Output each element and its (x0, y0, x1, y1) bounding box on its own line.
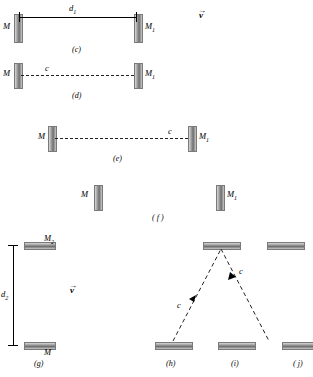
panel-g-label-M: M (44, 348, 51, 357)
panel-g-dim-label-sub: 2 (5, 295, 8, 301)
panel-h-mirror-bottom (155, 342, 193, 350)
panel-g-dim-label: d2 (1, 290, 8, 301)
panel-e-caption: (e) (113, 155, 122, 163)
panel-c-label-M: M (3, 22, 10, 31)
panel-g-velocity-arrow: → (69, 282, 77, 290)
panel-f-mirror-M (94, 185, 103, 211)
panel-c-dim-tick-right (136, 12, 137, 22)
panel-e-photon-label: c (168, 127, 172, 136)
photon-path-overlay (0, 0, 313, 377)
panel-c-label-M1: M1 (145, 22, 155, 33)
panel-e-mirror-M (48, 126, 57, 152)
panel-f-label-M1: M1 (227, 190, 237, 201)
panel-e-label-M: M (38, 132, 45, 141)
panel-g-label-M2-sub: 2 (51, 239, 54, 245)
photon-arrow-up (189, 295, 196, 302)
panel-i-caption: (i) (231, 360, 239, 368)
panel-h-photon-label: c (177, 301, 181, 310)
panel-g-velocity-label: → v (70, 286, 74, 295)
panel-d-photon-path (21, 75, 134, 76)
panel-c-dim-tick-left (19, 12, 20, 22)
panel-c-caption: (c) (72, 46, 81, 54)
panel-d-label-M1-sub: 1 (152, 74, 155, 80)
panel-c-dim-label: d1 (69, 4, 76, 15)
panel-h-caption: (h) (166, 360, 175, 368)
panel-d-label-M: M (3, 69, 10, 78)
panel-f-label-M: M (81, 190, 88, 199)
panel-d-mirror-M (14, 63, 23, 89)
panel-c-dim-line (19, 17, 136, 18)
panel-e-photon-path (55, 138, 188, 139)
panel-f-label-M1-sub: 1 (234, 195, 237, 201)
photon-path-up (173, 249, 221, 341)
panel-c-label-M1-sub: 1 (152, 27, 155, 33)
panel-i-mirror-top (203, 242, 241, 250)
panel-c-velocity-label: → v (199, 11, 203, 20)
panel-d-label-M1: M1 (145, 69, 155, 80)
panel-g-caption: (g) (34, 360, 43, 368)
panel-j-mirror-top (267, 242, 305, 250)
panel-e-label-M1: M1 (199, 132, 209, 143)
panel-g-dim-line (13, 245, 14, 345)
panel-c-dim-label-sub: 1 (73, 9, 76, 15)
photon-arrow-down (228, 272, 236, 280)
panel-g-label-M2: M2 (44, 234, 54, 245)
panel-d-mirror-M1 (134, 63, 143, 89)
panel-f-caption: ( f ) (152, 214, 164, 222)
panel-i-mirror-bottom (218, 342, 256, 350)
physics-figure: M M1 d1 (c) → v M M1 c (d) M M1 c (e) M … (0, 0, 313, 377)
panel-d-caption: (d) (72, 92, 81, 100)
panel-j-caption: ( j) (293, 360, 303, 368)
panel-j-mirror-bottom (282, 342, 313, 350)
panel-e-label-M1-sub: 1 (206, 137, 209, 143)
panel-d-photon-label: c (45, 64, 49, 73)
photon-path-down (221, 249, 269, 341)
panel-g-dim-tick-top (8, 245, 18, 246)
panel-c-velocity-arrow: → (198, 7, 206, 15)
panel-i-photon-label: c (239, 267, 243, 276)
panel-g-mirror-M (24, 342, 56, 350)
panel-e-mirror-M1 (188, 126, 197, 152)
panel-f-mirror-M1 (216, 185, 225, 211)
panel-g-dim-tick-bottom (8, 345, 18, 346)
